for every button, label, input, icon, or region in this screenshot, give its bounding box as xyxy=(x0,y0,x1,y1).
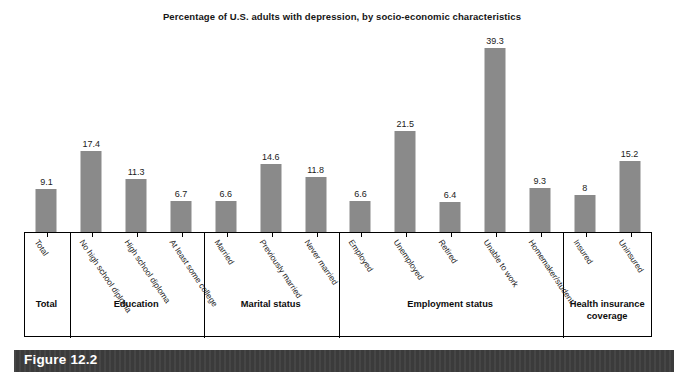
bar-value-label: 11.3 xyxy=(128,167,145,177)
axis-tick xyxy=(631,233,632,237)
axis-tick xyxy=(451,233,452,237)
bar-value-label: 6.6 xyxy=(354,189,367,199)
figure-caption: Figure 12.2 xyxy=(24,352,97,367)
axis-tick xyxy=(586,233,587,237)
bar[interactable] xyxy=(260,164,281,232)
bar[interactable] xyxy=(440,202,461,232)
group-label: Employment status xyxy=(338,299,562,311)
axis-tick xyxy=(47,233,48,237)
group-label: Total xyxy=(24,299,69,311)
bar-value-label: 14.6 xyxy=(262,152,280,162)
axis-tick xyxy=(227,233,228,237)
axis-tick xyxy=(496,233,497,237)
bar-value-label: 8 xyxy=(582,183,587,193)
bar[interactable] xyxy=(81,151,102,232)
bar-slot: 17.4 xyxy=(69,34,114,232)
bar-slot: 6.6 xyxy=(338,34,383,232)
bar-slot: 11.3 xyxy=(114,34,159,232)
bar[interactable] xyxy=(170,201,191,232)
bar-slot: 14.6 xyxy=(248,34,293,232)
bar-slot: 11.8 xyxy=(293,34,338,232)
figure-banner xyxy=(14,350,674,372)
axis-tick xyxy=(272,233,273,237)
bar-value-label: 9.3 xyxy=(534,176,547,186)
bar-slot: 6.6 xyxy=(203,34,248,232)
bar[interactable] xyxy=(484,48,505,232)
bar-value-label: 9.1 xyxy=(40,177,53,187)
group-label: Marital status xyxy=(203,299,338,311)
figure-container: Percentage of U.S. adults with depressio… xyxy=(0,0,684,372)
bar[interactable] xyxy=(350,201,371,232)
axis-tick xyxy=(137,233,138,237)
bar-slot: 9.1 xyxy=(24,34,69,232)
axis-tick xyxy=(361,233,362,237)
bar[interactable] xyxy=(574,195,595,232)
bar[interactable] xyxy=(305,177,326,232)
bar[interactable] xyxy=(126,179,147,232)
bar-value-label: 6.7 xyxy=(175,189,188,199)
axis-tick xyxy=(541,233,542,237)
bar[interactable] xyxy=(36,189,57,232)
axis-tick xyxy=(182,233,183,237)
bar-slot: 21.5 xyxy=(383,34,428,232)
bar-value-label: 15.2 xyxy=(621,149,639,159)
bar-value-label: 6.4 xyxy=(444,190,457,200)
bar-slot: 39.3 xyxy=(473,34,518,232)
axis-tick xyxy=(406,233,407,237)
group-label: Education xyxy=(69,299,204,311)
bar-value-label: 17.4 xyxy=(83,139,101,149)
bar[interactable] xyxy=(395,131,416,232)
chart-title: Percentage of U.S. adults with depressio… xyxy=(0,11,684,22)
bar[interactable] xyxy=(619,161,640,232)
bar-slot: 9.3 xyxy=(517,34,562,232)
bar-slot: 6.7 xyxy=(159,34,204,232)
bar[interactable] xyxy=(215,201,236,232)
group-separator xyxy=(70,233,71,338)
bar-slot: 8 xyxy=(562,34,607,232)
bar-value-label: 11.8 xyxy=(307,165,324,175)
bar-value-label: 21.5 xyxy=(397,119,415,129)
axis-tick xyxy=(92,233,93,237)
bar-chart-plot-area: 9.117.411.36.76.614.611.86.621.56.439.39… xyxy=(24,34,652,232)
group-label: Health insurance coverage xyxy=(562,299,652,322)
bar-slot: 15.2 xyxy=(607,34,652,232)
bar-value-label: 39.3 xyxy=(486,36,504,46)
bar-value-label: 6.6 xyxy=(220,189,233,199)
bar-slot: 6.4 xyxy=(428,34,473,232)
group-separator xyxy=(339,233,340,338)
axis-tick xyxy=(317,233,318,237)
bar[interactable] xyxy=(529,188,550,232)
